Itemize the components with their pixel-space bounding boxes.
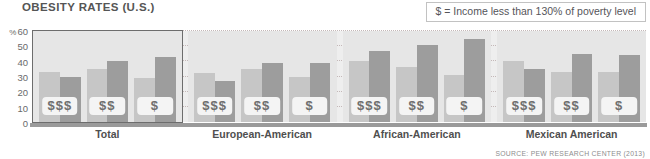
income-level-badge: $$$ — [351, 97, 387, 115]
bar-pair-3: $$$ — [194, 31, 236, 122]
page-title: OBESITY RATES (U.S.) — [22, 1, 155, 13]
bar-pair-1: $ — [444, 31, 486, 122]
legend: $ = Income less than 130% of poverty lev… — [426, 2, 647, 22]
x-axis-line — [30, 123, 647, 127]
y-axis-tick: 0 — [23, 118, 28, 129]
y-axis-tick: 40 — [17, 56, 28, 67]
bar-pair-1: $ — [134, 31, 176, 122]
bar-pair-2: $$ — [87, 31, 129, 122]
income-level-badge: $$$ — [506, 97, 542, 115]
bar-group-european-american: $$$$$$ — [188, 31, 337, 122]
income-level-badge: $$ — [90, 97, 126, 115]
legend-label: $ = Income less than 130% of poverty lev… — [436, 5, 637, 17]
source-note: SOURCE: PEW RESEARCH CENTER (2013) — [495, 150, 645, 157]
income-level-badge: $$$ — [197, 97, 233, 115]
income-level-badge: $ — [292, 97, 328, 115]
income-level-badge: $$ — [399, 97, 435, 115]
y-axis-tick: 10 — [17, 102, 28, 113]
bar-pair-3: $$$ — [349, 31, 391, 122]
income-level-badge: $$ — [244, 97, 280, 115]
income-level-badge: $$ — [554, 97, 590, 115]
category-label: European-American — [212, 128, 312, 140]
income-level-badge: $ — [447, 97, 483, 115]
y-axis-tick: 50 — [17, 41, 28, 52]
category-label: Mexican American — [526, 128, 618, 140]
bar-group-mexican-american: $$$$$$ — [497, 31, 646, 122]
plot-area: $$$$$$$$$$$$$$$$$$$$$$$$ — [33, 31, 646, 122]
y-axis-tick: 20 — [17, 87, 28, 98]
bar-pair-3: $$$ — [39, 31, 81, 122]
category-label: Total — [95, 128, 119, 140]
bar-pair-2: $$ — [241, 31, 283, 122]
bar-group-african-american: $$$$$$ — [343, 31, 492, 122]
bar-pair-1: $ — [289, 31, 331, 122]
category-label: African-American — [373, 128, 461, 140]
bar-pair-1: $ — [598, 31, 640, 122]
bar-pair-3: $$$ — [503, 31, 545, 122]
bar-group-total: $$$$$$ — [33, 31, 182, 122]
category-labels: TotalEuropean-AmericanAfrican-AmericanMe… — [33, 128, 646, 142]
income-level-badge: $ — [137, 97, 173, 115]
bar-pair-2: $$ — [396, 31, 438, 122]
y-axis-tick: %60 — [9, 26, 28, 37]
y-axis-tick: 30 — [17, 72, 28, 83]
income-level-badge: $$$ — [42, 97, 78, 115]
y-axis: 01020304050%60 — [0, 31, 31, 123]
income-level-badge: $ — [601, 97, 637, 115]
bar-pair-2: $$ — [551, 31, 593, 122]
